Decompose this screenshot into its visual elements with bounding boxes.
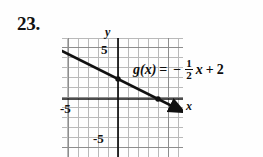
fraction-numerator: 1	[185, 58, 193, 69]
function-equation-label: g(x) = − 1 2 x + 2	[133, 58, 224, 81]
equation-fraction-one-half: 1 2	[185, 58, 193, 81]
tick-label-y-negative-5: -5	[93, 131, 104, 147]
equation-plus-sign: +	[206, 63, 214, 77]
axis-label-y: y	[105, 25, 110, 40]
point-x-intercept	[155, 96, 160, 101]
figure-canvas: 23.	[0, 0, 263, 157]
fraction-denominator: 2	[185, 69, 193, 81]
tick-label-x-negative-5: -5	[60, 101, 71, 117]
coordinate-graph	[62, 38, 183, 157]
equation-variable-x: x	[196, 63, 203, 77]
equation-equals-sign: =	[159, 63, 167, 77]
axis-label-x: x	[186, 99, 192, 114]
point-y-intercept	[115, 76, 120, 81]
equation-minus-sign: −	[173, 63, 181, 77]
equation-function-name: g(x)	[133, 63, 156, 77]
plot-area	[62, 38, 183, 157]
problem-number: 23.	[17, 13, 40, 35]
tick-label-y-positive-5: 5	[101, 42, 108, 58]
equation-constant: 2	[217, 63, 224, 77]
